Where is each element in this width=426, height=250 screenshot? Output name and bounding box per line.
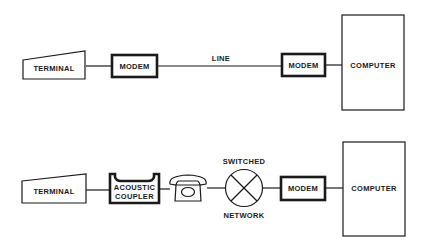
bottom-terminal: TERMINAL — [22, 174, 86, 203]
top-computer: COMPUTER — [342, 15, 404, 110]
top-modem-left: MODEM — [112, 55, 157, 77]
top-modem-right: MODEM — [282, 54, 325, 76]
top-row: TERMINAL MODEM LINE MODEM COMPUTER — [23, 15, 404, 110]
telephone-icon — [170, 175, 206, 201]
bottom-modem: MODEM — [281, 177, 325, 200]
acoustic-coupler-label-2: COUPLER — [115, 192, 154, 201]
top-computer-label: COMPUTER — [350, 61, 396, 70]
telephone-dial — [182, 188, 195, 197]
acoustic-coupler: ACOUSTIC COUPLER — [110, 174, 159, 203]
network-label: NETWORK — [224, 211, 265, 220]
top-modem-left-label: MODEM — [119, 62, 149, 71]
diagram-canvas: TERMINAL MODEM LINE MODEM COMPUTER — [0, 0, 426, 250]
top-modem-right-label: MODEM — [288, 61, 318, 70]
top-terminal-label: TERMINAL — [33, 64, 74, 73]
line-label: LINE — [212, 54, 230, 63]
bottom-row: TERMINAL ACOUSTIC COUPLER SWITCHED NETWO… — [22, 142, 405, 236]
bottom-computer-label: COMPUTER — [351, 184, 397, 193]
bottom-computer: COMPUTER — [343, 142, 405, 236]
switched-label: SWITCHED — [223, 157, 266, 166]
bottom-modem-label: MODEM — [288, 184, 318, 193]
switched-network: SWITCHED NETWORK — [223, 157, 266, 220]
top-terminal: TERMINAL — [23, 51, 85, 79]
telephone-handset — [170, 175, 206, 185]
bottom-terminal-label: TERMINAL — [33, 187, 74, 196]
acoustic-coupler-label-1: ACOUSTIC — [114, 183, 156, 192]
